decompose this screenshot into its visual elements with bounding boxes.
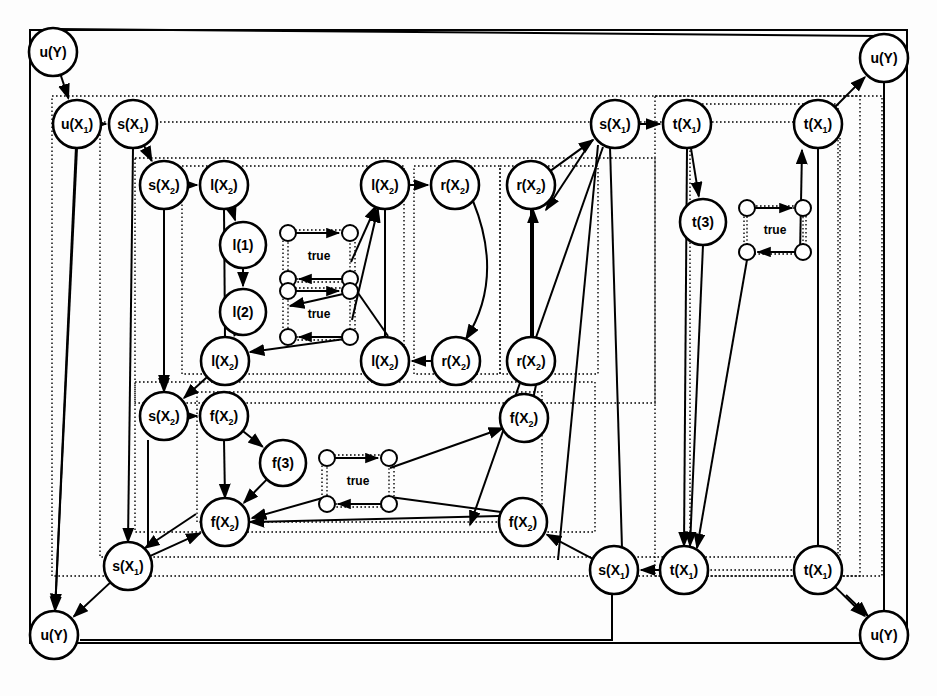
- node-t-X1-bottom-left[interactable]: t(X1): [660, 546, 708, 594]
- node-s-X1-top-left[interactable]: s(X1): [109, 100, 157, 148]
- node-label: l(2): [233, 304, 254, 320]
- edge-lX2br-up-to-true: [356, 290, 388, 336]
- node-u-Y-bottom-right[interactable]: u(Y): [860, 611, 908, 659]
- node-t-3[interactable]: t(3): [680, 199, 726, 245]
- edge-true-lower-back-to-lX2bl: [250, 338, 352, 352]
- edge-bottom-rail: [80, 594, 612, 640]
- node-s-X2-upper-left[interactable]: s(X2): [140, 161, 188, 209]
- edge-true-f-to-fX2tr: [390, 428, 503, 468]
- true-box-l-lower: true: [280, 283, 358, 345]
- node-label: t(3): [692, 214, 714, 230]
- node-label: u(Y): [870, 627, 897, 643]
- edge-uX1-down-to-uY-bottom: [55, 148, 77, 611]
- edges-layer: [55, 29, 884, 640]
- edge-sX1bl-to-uYbl: [74, 582, 111, 616]
- edge-sX1bl-to-fX2bl: [150, 533, 201, 556]
- true-box-port-bl: [739, 244, 755, 260]
- t-group-frame: [690, 104, 838, 570]
- true-box-port-bl: [319, 496, 335, 512]
- true-box-port-tr: [795, 200, 811, 216]
- node-f-X2-bottom-left[interactable]: f(X2): [201, 498, 249, 546]
- node-label: u(Y): [40, 627, 67, 643]
- node-r-X2-top-right[interactable]: r(X2): [507, 161, 555, 209]
- true-box-port-tr: [342, 283, 358, 299]
- node-s-X1-top-right[interactable]: s(X1): [591, 100, 639, 148]
- true-box-label: true: [308, 307, 331, 321]
- edge-fX2br-to-fX2bl: [250, 516, 499, 522]
- node-f-X2-top-right[interactable]: f(X2): [500, 394, 548, 442]
- true-box-port-tl: [739, 200, 755, 216]
- true-box-port-br: [795, 244, 811, 260]
- edge-sX1r-down-long: [558, 145, 598, 560]
- edge-true-f-to-fX2bl: [252, 497, 326, 518]
- true-box-port-tr: [381, 450, 397, 466]
- edge-tX1l-to-t3: [691, 148, 699, 197]
- node-label: l(1): [233, 237, 254, 253]
- node-t-X1-bottom-right[interactable]: t(X1): [794, 546, 842, 594]
- edge-lX2-to-l1: [231, 208, 235, 220]
- true-box-l-upper: true: [280, 225, 358, 287]
- node-t-X1-top-right[interactable]: t(X1): [794, 100, 842, 148]
- node-r-X2-bottom-right[interactable]: r(X2): [507, 337, 555, 385]
- edge-uY-to-uX1: [61, 75, 69, 99]
- true-box-f: true: [319, 450, 397, 512]
- edge-fX2br-to-true-f: [390, 497, 501, 512]
- node-f-3[interactable]: f(3): [260, 440, 306, 486]
- true-box-port-tr: [342, 225, 358, 241]
- node-r-X2-bottom-left[interactable]: r(X2): [432, 337, 480, 385]
- edge-t3-down-to-tX1bl: [690, 245, 703, 546]
- node-s-X1-bottom-right[interactable]: s(X1): [590, 546, 638, 594]
- edge-tX1br-to-uYbr: [835, 587, 865, 616]
- edge-rX2tr-to-sX1r: [550, 140, 593, 171]
- node-f-X2-top-left[interactable]: f(X2): [200, 392, 248, 440]
- node-u-Y-bottom-left[interactable]: u(Y): [30, 611, 78, 659]
- true-box-port-br: [342, 329, 358, 345]
- true-box-port-br: [381, 496, 397, 512]
- node-label: f(3): [272, 455, 294, 471]
- node-s-X1-bottom-left[interactable]: s(X1): [104, 542, 152, 590]
- node-l-X2-bottom-right[interactable]: l(X2): [361, 337, 409, 385]
- true-box-label: true: [764, 223, 787, 237]
- node-l-X2-top-left[interactable]: l(X2): [200, 161, 248, 209]
- node-u-Y-top-right[interactable]: u(Y): [860, 34, 908, 82]
- true-box-port-tl: [319, 450, 335, 466]
- node-s-X2-lower-left[interactable]: s(X2): [140, 392, 188, 440]
- node-label: u(Y): [870, 50, 897, 66]
- node-t-X1-top-left[interactable]: t(X1): [663, 100, 711, 148]
- edge-tX1br-to-uYbr: [846, 595, 868, 616]
- node-u-Y-top-left[interactable]: u(Y): [29, 28, 77, 76]
- true-box-port-tl: [280, 283, 296, 299]
- node-l-X2-top-right[interactable]: l(X2): [361, 161, 409, 209]
- node-l-X2-bottom-left[interactable]: l(X2): [201, 337, 249, 385]
- dependency-graph-svg: truetruetruetrue u(Y)u(Y)u(Y)u(Y)u(X1)s(…: [0, 0, 937, 696]
- edge-f3-to-fX2bl: [244, 479, 267, 502]
- node-l-2[interactable]: l(2): [220, 289, 266, 335]
- edge-true-t-down: [697, 254, 748, 548]
- edge-lX2bl-to-sX2b: [184, 377, 207, 398]
- edge-fX2tl-down-to-fX2bl: [224, 440, 225, 498]
- node-r-X2-top-left[interactable]: r(X2): [431, 161, 479, 209]
- edge-tX1r-to-uYtr: [835, 77, 865, 107]
- node-label: u(Y): [39, 44, 66, 60]
- node-f-X2-bottom-right[interactable]: f(X2): [499, 498, 547, 546]
- edge-sX1-top-down-to-sX1-bottom: [128, 148, 133, 542]
- true-box-port-tl: [280, 225, 296, 241]
- node-u-X1[interactable]: u(X1): [53, 100, 101, 148]
- node-l-1[interactable]: l(1): [220, 222, 266, 268]
- true-box-port-bl: [280, 329, 296, 345]
- edge-fX2bl-to-sX1bl: [145, 514, 196, 548]
- true-box-label: true: [308, 249, 331, 263]
- true-box-label: true: [347, 474, 370, 488]
- edge-fX2tl-to-f3: [243, 431, 263, 447]
- edge-sX1r-down-right: [610, 147, 622, 548]
- diagram-canvas: truetruetruetrue u(Y)u(Y)u(Y)u(Y)u(X1)s(…: [0, 0, 937, 696]
- edge-rX2tl-to-rX2bl: [466, 201, 487, 339]
- edge-sX1brt-to-fX2br: [547, 535, 593, 559]
